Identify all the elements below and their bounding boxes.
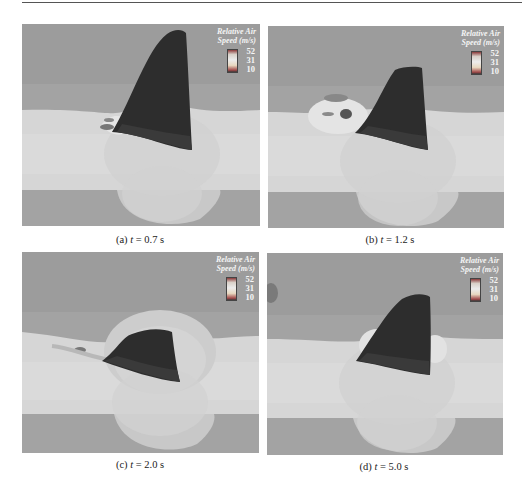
- speed-legend-d: Relative Air Speed (m/s) 52 31 10: [460, 256, 499, 274]
- caption-d: (d) t = 5.0 s: [284, 461, 484, 472]
- speed-legend-a: Relative Air Speed (m/s) 52 31 10: [217, 27, 256, 45]
- caption-b: (b) t = 1.2 s: [290, 234, 490, 245]
- speed-legend-c: Relative Air Speed (m/s) 52 31 10: [216, 255, 255, 273]
- flow-field-c: [22, 252, 259, 453]
- speed-legend-b: Relative Air Speed (m/s) 52 31 10: [461, 29, 500, 47]
- legend-title-line2: Speed (m/s): [460, 265, 499, 274]
- legend-title-line1: Relative Air: [461, 29, 500, 38]
- page-top-rule: [22, 2, 522, 3]
- legend-title-line2: Speed (m/s): [461, 38, 500, 47]
- colorbar-ticks: 52 31 10: [490, 276, 499, 303]
- colorbar-ticks: 52 31 10: [247, 47, 256, 74]
- panel-a: Relative Air Speed (m/s) 52 31 10: [22, 24, 260, 226]
- legend-title-line1: Relative Air: [216, 255, 255, 264]
- legend-title-line2: Speed (m/s): [216, 264, 255, 273]
- panel-b: Relative Air Speed (m/s) 52 31 10: [268, 26, 504, 228]
- legend-title-line1: Relative Air: [460, 256, 499, 265]
- caption-a: (a) t = 0.7 s: [40, 234, 240, 245]
- flow-field-d: [267, 253, 503, 455]
- flow-field-a: [22, 24, 260, 226]
- caption-c: (c) t = 2.0 s: [40, 459, 240, 470]
- panel-d: Relative Air Speed (m/s) 52 31 10: [267, 253, 503, 455]
- colorbar: [470, 278, 481, 302]
- colorbar-ticks: 52 31 10: [246, 275, 255, 302]
- colorbar: [227, 49, 238, 73]
- legend-title-line1: Relative Air: [217, 27, 256, 36]
- colorbar: [471, 51, 482, 75]
- panel-c: Relative Air Speed (m/s) 52 31 10: [22, 252, 259, 453]
- colorbar: [226, 277, 237, 301]
- legend-title-line2: Speed (m/s): [217, 36, 256, 45]
- colorbar-ticks: 52 31 10: [491, 49, 500, 76]
- flow-field-b: [268, 26, 504, 228]
